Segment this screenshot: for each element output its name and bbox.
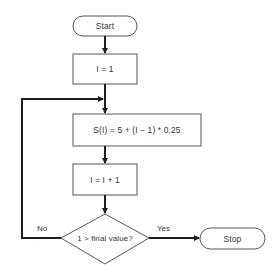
increment-label: I = I + 1 xyxy=(90,175,120,185)
yes-branch-label: Yes xyxy=(157,224,170,233)
no-branch-label: No xyxy=(37,224,47,233)
start-label: Start xyxy=(96,21,114,31)
compute-box: S(I) = 5 + (I − 1) * 0.25 xyxy=(73,114,201,146)
stop-label: Stop xyxy=(224,234,242,244)
init-label: I = 1 xyxy=(96,64,113,74)
flowchart-canvas: Start I = 1 S(I) = 5 + (I − 1) * 0.25 I … xyxy=(0,0,277,274)
decision-label: 1 > final value? xyxy=(77,234,133,243)
stop-terminator: Stop xyxy=(200,228,265,249)
init-box: I = 1 xyxy=(73,54,137,84)
increment-box: I = I + 1 xyxy=(73,164,137,195)
start-terminator: Start xyxy=(73,16,137,36)
decision-diamond: 1 > final value? xyxy=(61,228,149,248)
compute-label: S(I) = 5 + (I − 1) * 0.25 xyxy=(93,125,180,135)
